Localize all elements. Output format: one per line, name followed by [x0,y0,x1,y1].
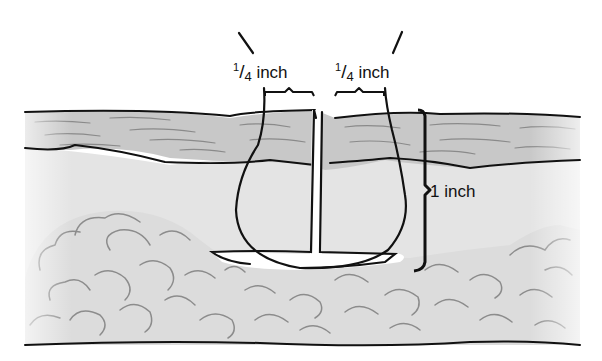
skin-cross-section-diagram [0,0,602,361]
unit-text: inch [358,63,389,82]
right-margin-label: 1/4 inch [335,62,390,83]
edge-fade [0,100,602,361]
depth-value: 1 [430,182,439,201]
unit-text: inch [256,63,287,82]
unit-text: inch [444,182,475,201]
margin-brackets [265,88,384,96]
depth-label: 1 inch [430,183,475,200]
fraction-denominator: 4 [346,69,353,84]
fraction-denominator: 4 [244,69,251,84]
incision-guides [239,32,402,53]
left-margin-label: 1/4 inch [233,62,288,83]
